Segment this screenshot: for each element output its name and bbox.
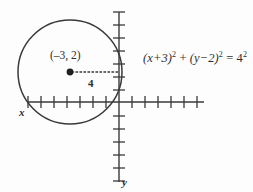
equation-equals-sign: = [226, 51, 233, 65]
equation-term-2-base: (y−2) [190, 51, 219, 65]
circle-equation-figure: (–3, 2) 4 x y (x+3)2 + (y−2)2 = 42 [0, 0, 253, 192]
equation-rhs-exponent: 2 [243, 50, 247, 59]
equation-term-1-exponent: 2 [172, 50, 176, 59]
radius-length-label: 4 [88, 78, 94, 89]
x-axis-label: x [19, 107, 25, 118]
coordinate-plane-graphic [0, 0, 253, 192]
y-axis-label: y [122, 177, 127, 188]
center-point-label: (–3, 2) [50, 50, 81, 62]
circle-equation-label: (x+3)2 + (y−2)2 = 42 [143, 52, 247, 65]
equation-term-2-exponent: 2 [219, 50, 223, 59]
equation-term-1-base: (x+3) [143, 51, 172, 65]
center-point-dot [67, 69, 74, 76]
equation-plus-sign: + [179, 51, 186, 65]
